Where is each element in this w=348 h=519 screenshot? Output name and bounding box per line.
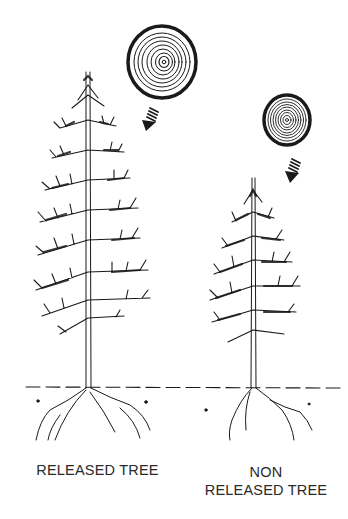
arrow-down-icon: [147, 108, 158, 121]
released-tree: [34, 72, 150, 440]
label-text: RELEASED TREE: [36, 462, 158, 478]
released-tree-rings-icon: [128, 26, 196, 98]
non-released-tree: [210, 178, 312, 440]
label-line-2: RELEASED TREE: [186, 481, 346, 499]
ground-line: [26, 387, 340, 388]
arrow-down-icon: [289, 159, 300, 172]
non-released-tree-label: NON RELEASED TREE: [186, 463, 346, 499]
illustration: [0, 0, 348, 519]
label-line-1: NON: [186, 463, 346, 481]
non-released-tree-rings-icon: [264, 95, 310, 145]
released-tree-label: RELEASED TREE: [30, 461, 165, 479]
